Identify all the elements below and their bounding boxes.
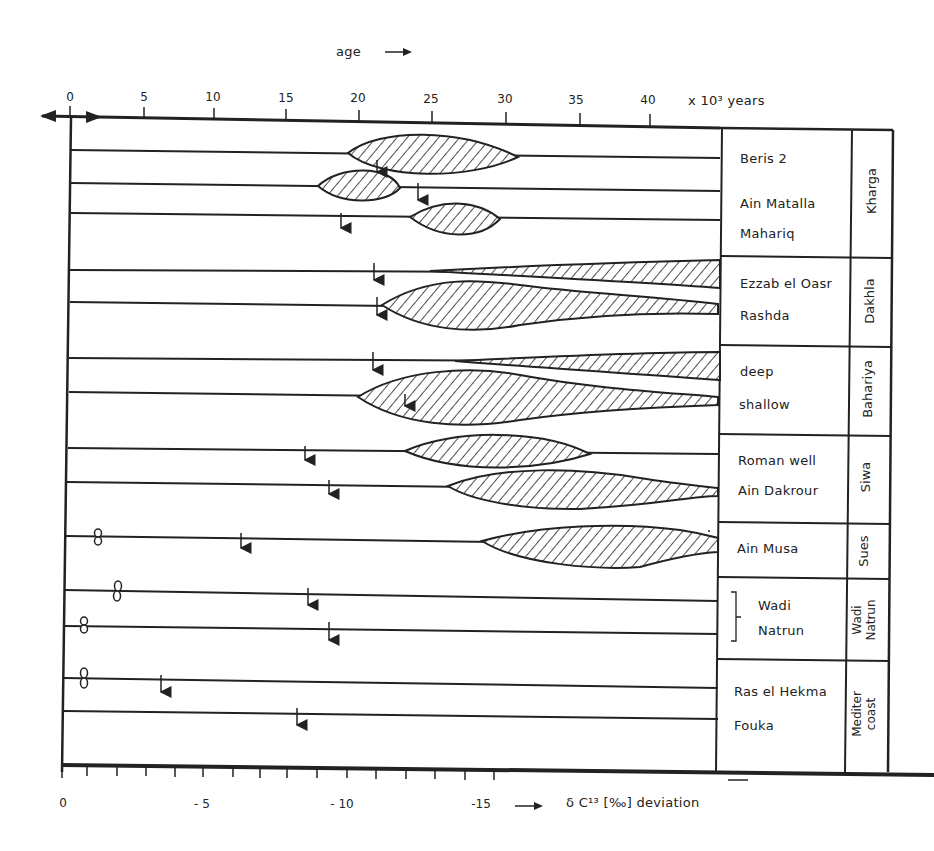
well-label: Roman well: [738, 453, 816, 468]
well-label: Ain Musa: [737, 541, 798, 556]
lens-ain-dakrour: [448, 470, 718, 509]
left-axis: [62, 118, 71, 772]
top-tick: 40: [640, 93, 655, 107]
lens-roman-well: [405, 435, 590, 468]
chart-canvas: [0, 0, 934, 851]
well-label: deep: [740, 364, 774, 379]
top-tick: 15: [278, 91, 293, 105]
region-label: Kharga: [865, 161, 879, 221]
well-label: Natrun: [758, 623, 804, 638]
well-label: Ezzab el Oasr: [740, 276, 832, 291]
age-lenses: [318, 135, 720, 568]
well-lines: [64, 150, 720, 719]
top-tick: 0: [66, 90, 74, 104]
region-label: Dakhla: [863, 271, 877, 331]
lens-shallow: [358, 370, 718, 425]
top-tick: 5: [140, 90, 148, 104]
well-label: Beris 2: [740, 151, 787, 166]
age-axis-label: age: [336, 44, 361, 59]
top-tick: 35: [568, 93, 583, 107]
lens-beris2: [348, 135, 518, 174]
region-label: Bahariya: [861, 354, 875, 424]
well-label: Wadi: [758, 598, 791, 613]
lens-ain-matalla: [318, 170, 400, 200]
delta-axis-label: δ C¹³ [‰] deviation: [540, 795, 700, 810]
top-tick: 25: [423, 92, 438, 106]
well-label: Ain Dakrour: [738, 483, 818, 498]
region-label: Sues: [857, 533, 871, 569]
bottom-tick: - 10: [330, 797, 353, 811]
region-label: Wadi Natrun: [850, 592, 878, 648]
well-label: shallow: [739, 397, 790, 412]
legend-table: [716, 128, 893, 772]
top-tick: 30: [497, 92, 512, 106]
bottom-tick: -15: [471, 797, 491, 811]
region-label: Siwa: [859, 457, 873, 497]
well-label: Ras el Hekma: [734, 684, 827, 699]
delta-axis-arrow-icon: [515, 801, 547, 811]
well-label: Rashda: [740, 308, 790, 323]
lens-rashda: [382, 281, 718, 330]
marker-ovals: [81, 529, 122, 688]
well-label: Mahariq: [740, 226, 795, 241]
well-label: Ain Matalla: [740, 196, 816, 211]
age-unit-label: x 10³ years: [688, 93, 765, 108]
top-tick: 10: [205, 90, 220, 104]
lens-ain-musa: [482, 526, 718, 568]
bottom-tick: 0: [59, 796, 67, 810]
bottom-axis: [62, 765, 934, 780]
lens-mahariq: [410, 204, 500, 235]
top-tick: 20: [350, 91, 365, 105]
region-label: Mediter coast: [850, 682, 878, 746]
well-label: Fouka: [734, 718, 774, 733]
delta-c13-arrows: [161, 160, 418, 725]
bottom-tick: - 5: [194, 797, 210, 811]
top-axis: [40, 48, 720, 128]
